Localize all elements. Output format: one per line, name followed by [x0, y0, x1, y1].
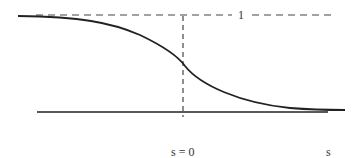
- sigmoid-diagram: 1 s = 0 s: [0, 0, 358, 158]
- label-s-axis: s: [326, 146, 331, 158]
- label-one: 1: [238, 9, 244, 21]
- label-origin: s = 0: [171, 146, 194, 158]
- diagram-canvas: [0, 0, 358, 158]
- sigmoid-curve: [18, 16, 345, 110]
